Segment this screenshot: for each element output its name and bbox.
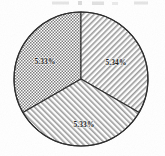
slice-bottom-label: 5.33% (74, 120, 95, 129)
pie-chart-canvas: 5.33% 5.33% 5.34% 5.34% 5.33% 5.33% (0, 0, 165, 156)
slice-right-label: 5.34% (106, 58, 127, 67)
pie-chart-figure: 5.33% 5.33% 5.34% 5.34% 5.33% 5.33% (0, 0, 165, 156)
slice-left-label: 5.33% (35, 57, 56, 66)
